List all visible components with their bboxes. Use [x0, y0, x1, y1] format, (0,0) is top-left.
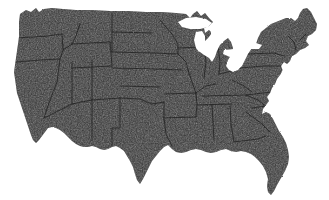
us-map-svg: Map of the Contiguous United States — [0, 0, 329, 200]
map-canvas: Map of the Contiguous United States — [0, 0, 329, 200]
